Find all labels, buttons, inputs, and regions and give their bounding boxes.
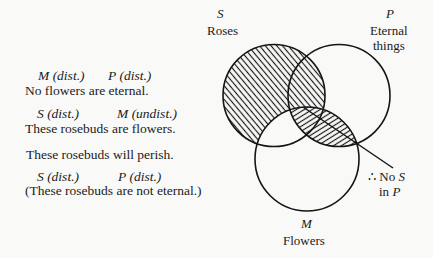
callout-line-2: in P (379, 184, 400, 199)
circle-s-letter: S (217, 6, 224, 21)
term-label: P (dist.) (107, 68, 152, 83)
premise-1: M (dist.) P (dist.) No flowers are etern… (25, 68, 152, 98)
therefore-symbol: ∴ (368, 169, 376, 184)
circle-p-name-line1: Eternal (370, 23, 408, 38)
circle-p-name-line2: things (373, 38, 405, 53)
circle-m-name: Flowers (283, 233, 325, 248)
premise-2-statement: These rosebuds are flowers. (25, 121, 176, 136)
callout-line-1: ∴ No S (368, 169, 405, 184)
premise-2: S (dist.) M (undist.) These rosebuds are… (25, 106, 178, 136)
venn-diagram: S Roses P Eternal things M Flowers ∴ No … (200, 6, 420, 248)
term-label: M (undist.) (116, 106, 178, 121)
conclusion-restatement: (These rosebuds are not eternal.) (25, 183, 202, 198)
conclusion-statement: These rosebuds will perish. (26, 147, 174, 162)
argument-text: M (dist.) P (dist.) No flowers are etern… (25, 68, 202, 198)
circle-m-letter: M (300, 216, 313, 231)
term-label: P (dist.) (117, 169, 162, 184)
term-label: M (dist.) (37, 68, 85, 83)
term-label: S (dist.) (37, 106, 80, 121)
term-label: S (dist.) (37, 169, 80, 184)
premise-1-statement: No flowers are eternal. (25, 83, 149, 98)
circle-p-letter: P (385, 6, 394, 21)
syllogism-figure: M (dist.) P (dist.) No flowers are etern… (0, 0, 433, 258)
conclusion: These rosebuds will perish. S (dist.) P … (25, 147, 202, 198)
circle-s-name: Roses (207, 23, 238, 38)
